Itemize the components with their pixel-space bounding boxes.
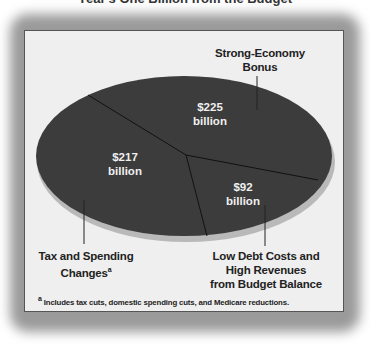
value-line: $225 xyxy=(180,100,240,114)
label-strong-economy: Strong-Economy Bonus xyxy=(205,46,315,74)
value-line: $217 xyxy=(95,150,155,164)
label-line: Tax and Spending xyxy=(36,249,136,263)
label-line: Bonus xyxy=(205,60,315,74)
value-line: billion xyxy=(213,194,273,208)
footnote-marker: a xyxy=(108,266,112,273)
label-low-debt: Low Debt Costs and High Revenues from Bu… xyxy=(205,249,327,291)
value-line: billion xyxy=(95,164,155,178)
value-line: $92 xyxy=(213,180,273,194)
label-line: Changes xyxy=(61,267,108,279)
value-217: $217 billion xyxy=(95,150,155,178)
value-line: billion xyxy=(180,114,240,128)
label-line: Strong-Economy xyxy=(205,46,315,60)
value-92: $92 billion xyxy=(213,180,273,208)
label-tax-spending: Tax and Spending Changesa xyxy=(36,249,136,280)
label-line: High Revenues xyxy=(205,263,327,277)
footnote: a Includes tax cuts, domestic spending c… xyxy=(38,295,289,307)
label-line: Low Debt Costs and xyxy=(205,249,327,263)
footnote-text: Includes tax cuts, domestic spending cut… xyxy=(44,298,289,307)
value-225: $225 billion xyxy=(180,100,240,128)
footnote-marker: a xyxy=(38,295,42,302)
label-line: from Budget Balance xyxy=(205,277,327,291)
